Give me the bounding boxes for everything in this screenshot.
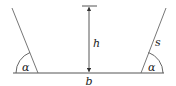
- right-angle-label: α: [148, 61, 156, 74]
- left-angle-label: α: [22, 61, 30, 74]
- side-label: s: [155, 36, 161, 49]
- base-label: b: [86, 75, 93, 86]
- diagram-canvas: α α h s b: [0, 0, 176, 86]
- height-label: h: [93, 37, 100, 50]
- trapezoid-channel-diagram: α α h s b: [0, 0, 176, 86]
